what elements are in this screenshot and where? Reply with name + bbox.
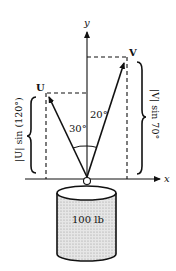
angle-v-label: 20° bbox=[90, 109, 108, 120]
v-component-brace bbox=[137, 62, 146, 174]
vector-v-arrow bbox=[87, 63, 124, 177]
angle-arc-u bbox=[73, 146, 87, 148]
x-axis-label: x bbox=[164, 173, 170, 184]
angle-arcs bbox=[73, 146, 97, 148]
angle-arc-v bbox=[87, 146, 97, 148]
pivot-ring bbox=[84, 178, 91, 185]
u-component-label: |U| sin (120°) bbox=[13, 97, 25, 162]
vector-v-label: V bbox=[128, 47, 137, 58]
weight-label: 100 lb bbox=[72, 214, 104, 225]
y-axis-label: y bbox=[83, 17, 90, 28]
axes bbox=[25, 32, 160, 179]
vector-u-arrow bbox=[49, 97, 87, 177]
u-component-brace bbox=[27, 97, 36, 173]
v-component-label: |V| sin 70° bbox=[149, 89, 161, 139]
force-diagram: y x U V 30° 20° |U| sin (120°) |V| sin 7… bbox=[0, 0, 176, 271]
vector-u-label: U bbox=[36, 82, 45, 93]
angle-u-label: 30° bbox=[69, 123, 87, 134]
